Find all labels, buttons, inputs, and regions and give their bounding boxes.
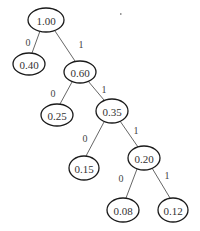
node-value: 0.12 [163, 205, 182, 217]
tree-node: 0.15 [69, 156, 99, 180]
tree-node: 0.40 [13, 53, 45, 75]
node-value: 1.00 [36, 15, 56, 27]
edge-n7-n8 [126, 169, 137, 198]
edge-label: 1 [102, 84, 107, 95]
node-value: 0.25 [47, 110, 67, 122]
edge-label: 0 [51, 88, 56, 99]
node-value: 0.20 [134, 153, 154, 165]
nodes-layer: 1.000.400.600.250.350.150.200.080.12 [13, 8, 188, 222]
edge-n1-n2 [32, 31, 40, 53]
tree-node: 0.20 [128, 146, 160, 170]
node-value: 0.08 [113, 205, 133, 217]
edge-label: 1 [79, 39, 84, 50]
tree-node: 0.60 [64, 61, 96, 83]
tree-node: 0.35 [96, 99, 128, 123]
edge-label: 1 [134, 125, 139, 136]
edge-label: 0 [119, 173, 124, 184]
tree-node: 0.12 [158, 198, 188, 222]
edge-label: 0 [83, 133, 88, 144]
edge-n3-n4 [60, 82, 72, 104]
edge-n1-n3 [55, 31, 75, 61]
tree-node: 0.25 [41, 104, 73, 126]
node-value: 0.60 [70, 67, 90, 79]
tree-svg: 01010101 1.000.400.600.250.350.150.200.0… [0, 0, 200, 231]
stray-mark [120, 13, 122, 15]
edge-label: 1 [165, 170, 170, 181]
huffman-tree-diagram: 01010101 1.000.400.600.250.350.150.200.0… [0, 0, 200, 231]
edge-label: 0 [26, 37, 31, 48]
node-value: 0.15 [74, 163, 94, 175]
tree-node: 1.00 [28, 8, 64, 32]
node-value: 0.35 [102, 106, 122, 118]
edge-n5-n6 [86, 122, 104, 156]
node-value: 0.40 [19, 59, 39, 71]
tree-node: 0.08 [107, 198, 139, 222]
